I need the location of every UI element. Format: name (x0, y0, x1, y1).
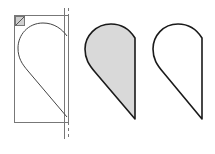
teardrop-construction-path (18, 23, 67, 117)
diagram-canvas (0, 0, 215, 154)
panel-filled (85, 24, 135, 119)
teardrop-outline-shape (153, 24, 202, 119)
corner-marker (16, 17, 25, 26)
teardrop-filled-shape (85, 24, 135, 119)
panel-construction (15, 8, 69, 139)
panel-outline (153, 24, 202, 119)
bounding-frame (15, 16, 69, 123)
